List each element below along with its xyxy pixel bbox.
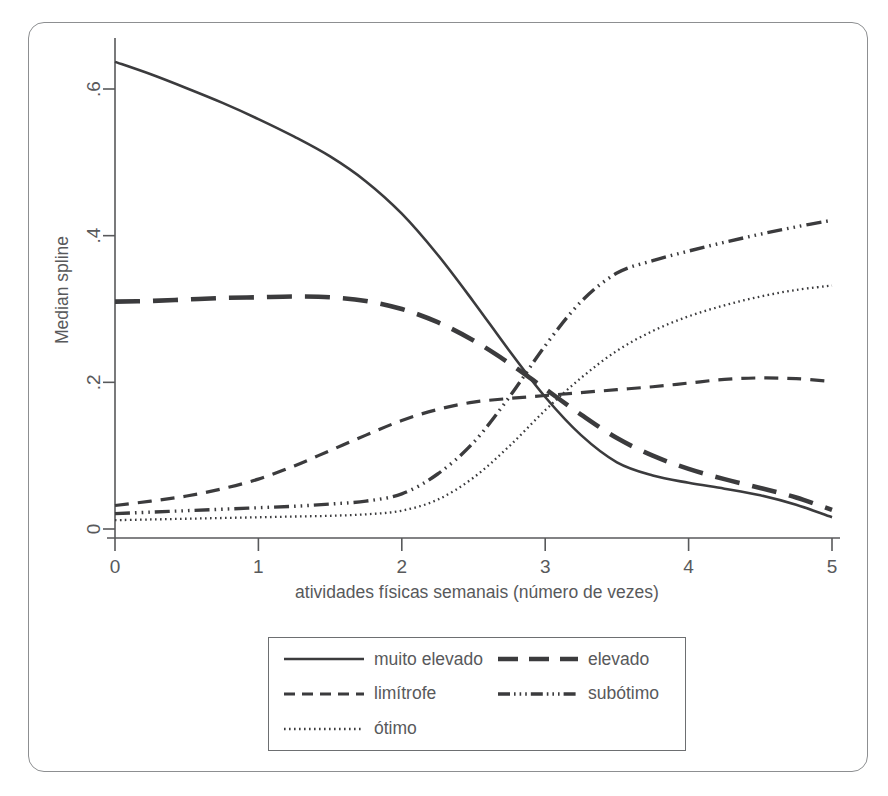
y-tick-group: 0.2.4.6: [83, 81, 115, 534]
x-tick-label: 4: [683, 556, 694, 577]
legend-line-sample-icon: [497, 687, 579, 701]
legend-line-sample-icon: [283, 687, 365, 701]
figure-chart-median-spline: 0.2.4.6 012345 Median spline atividades …: [0, 0, 888, 796]
legend-label: elevado: [588, 649, 649, 670]
y-tick-label: .6: [83, 81, 104, 97]
legend-line-sample-icon: [497, 652, 579, 666]
series-line: [115, 220, 832, 513]
series-line: [115, 378, 832, 506]
legend-line-sample-icon: [283, 652, 365, 666]
x-tick-group: 012345: [110, 538, 838, 577]
y-tick-label: .2: [83, 374, 104, 390]
legend-entry[interactable]: subótimo: [483, 683, 685, 704]
legend-label: muito elevado: [374, 649, 483, 670]
legend-entry[interactable]: limítrofe: [269, 683, 483, 704]
y-tick-label: .4: [83, 227, 104, 243]
curve-group: [115, 62, 832, 520]
x-tick-label: 2: [397, 556, 408, 577]
x-tick-label: 0: [110, 556, 121, 577]
legend-grid: muito elevadoelevadolimítrofesubótimoóti…: [269, 638, 685, 750]
legend-box: muito elevadoelevadolimítrofesubótimoóti…: [268, 637, 686, 751]
y-tick-label: 0: [83, 524, 104, 535]
series-line: [115, 62, 832, 517]
legend-label: ótimo: [374, 718, 417, 739]
legend-label: limítrofe: [374, 683, 436, 704]
legend-label: subótimo: [588, 683, 659, 704]
x-tick-label: 1: [253, 556, 264, 577]
x-tick-label: 5: [827, 556, 838, 577]
legend-entry[interactable]: muito elevado: [269, 649, 483, 670]
y-axis-title: Median spline: [52, 236, 72, 344]
legend-line-sample-icon: [283, 722, 365, 736]
legend-entry[interactable]: ótimo: [269, 718, 483, 739]
legend-entry[interactable]: elevado: [483, 649, 685, 670]
x-tick-label: 3: [540, 556, 551, 577]
x-axis-title: atividades físicas semanais (número de v…: [295, 582, 659, 602]
